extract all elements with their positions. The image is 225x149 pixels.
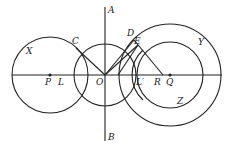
label-Q: Q (166, 78, 173, 87)
label-A: A (108, 6, 115, 15)
label-Z: Z (177, 97, 183, 106)
label-P: P (45, 78, 51, 87)
label-L: L (58, 78, 64, 87)
label-R: R (154, 78, 161, 87)
label-O: O (96, 78, 103, 87)
geometry-diagram: A B C D E X Y Z P L O L′ R Q (0, 0, 225, 149)
label-C: C (72, 37, 79, 46)
diagram-canvas (0, 0, 225, 149)
label-E: E (134, 37, 141, 46)
label-L-prime: L′ (136, 78, 144, 87)
label-X: X (26, 47, 32, 56)
label-B: B (108, 133, 115, 142)
segment-OC (76, 48, 105, 75)
label-Y: Y (198, 38, 204, 47)
